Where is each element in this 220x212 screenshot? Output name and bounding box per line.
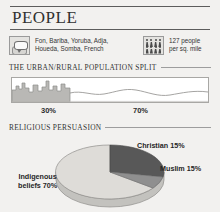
section-heading-religion: RELIGIOUS PERSUASION (9, 123, 211, 132)
fact-population-density: 127 people per sq. mile (143, 36, 213, 55)
people-density-icon (143, 36, 164, 55)
header-rule-bottom (10, 29, 210, 30)
person-figure (158, 46, 162, 53)
urban-rural-chart (11, 77, 209, 103)
rural-landscape-line (70, 89, 208, 95)
pie-label-muslim: Muslim 15% (160, 164, 201, 173)
urban-percentage: 30% (41, 106, 56, 115)
section-heading-religion-label: RELIGIOUS PERSUASION (9, 123, 101, 132)
fact-languages: Fon, Bariba, Yoruba, Adja, Houeda, Somba… (9, 36, 141, 55)
pie-label-christian: Christian 15% (137, 141, 185, 150)
fact-languages-text: Fon, Bariba, Yoruba, Adja, Houeda, Somba… (30, 36, 108, 53)
section-heading-rule (105, 127, 211, 128)
religion-pie-chart: Christian 15% Muslim 15% Indigenous beli… (0, 132, 220, 212)
section-heading-urban-rural-label: THE URBAN/RURAL POPULATION SPLIT (9, 63, 157, 72)
urban-rural-labels: 30% 70% (11, 106, 209, 118)
section-heading-rule (161, 67, 212, 68)
facts-row: Fon, Bariba, Yoruba, Adja, Houeda, Somba… (9, 36, 213, 55)
fact-languages-line2: Houeda, Somba, French (35, 45, 108, 53)
fact-density-line2: per sq. mile (169, 45, 202, 53)
pie-label-indigenous: Indigenous beliefs 70% (18, 172, 57, 190)
speech-bubble-icon (9, 36, 30, 55)
rural-percentage: 70% (133, 106, 148, 115)
urban-rural-svg (12, 78, 208, 102)
fact-density-text: 127 people per sq. mile (164, 36, 202, 53)
fact-languages-line1: Fon, Bariba, Yoruba, Adja, (35, 37, 108, 45)
page-header: PEOPLE (10, 6, 210, 30)
people-grid (144, 37, 163, 54)
fact-density-line1: 127 people (169, 37, 202, 45)
page-title: PEOPLE (10, 7, 210, 28)
speech-bubble-shape (14, 41, 28, 50)
section-heading-urban-rural: THE URBAN/RURAL POPULATION SPLIT (9, 63, 211, 72)
pie-label-indigenous-line1: Indigenous (18, 172, 56, 181)
pie-label-indigenous-line2: beliefs 70% (18, 181, 57, 190)
urban-skyline (12, 81, 70, 102)
